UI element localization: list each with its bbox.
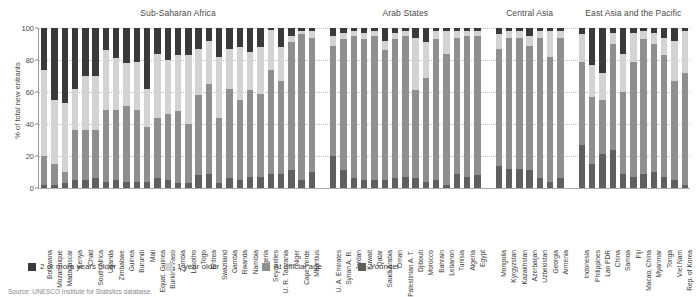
bar-segment (195, 28, 201, 49)
bar-segment (257, 177, 263, 188)
bar-segment (257, 47, 263, 93)
category-label: Azerbaijan (532, 250, 539, 281)
bar-segment (412, 90, 418, 178)
bar-segment (237, 100, 243, 180)
bar-segment (92, 28, 98, 76)
bar-segment (537, 38, 543, 179)
bar-segment (589, 28, 595, 65)
bar-segment (382, 41, 388, 51)
bar-segment (288, 28, 294, 36)
category-label: Tunisia (459, 250, 466, 271)
bar-segment (423, 28, 429, 42)
bar-segment (599, 28, 605, 73)
category-label: Zimbabwe (119, 250, 126, 280)
bar-segment (454, 174, 460, 188)
bar-segment (154, 28, 160, 54)
bar (671, 28, 677, 188)
bar-segment (402, 36, 408, 177)
bar-segment (526, 170, 532, 188)
bar-segment (41, 156, 47, 185)
bar-segment (537, 178, 543, 188)
bar-segment (51, 100, 57, 164)
bar-segment (288, 42, 294, 170)
bar-segment (474, 175, 480, 188)
bar (630, 28, 636, 188)
bar-segment (185, 124, 191, 183)
bar-segment (526, 28, 532, 36)
bar-segment (113, 180, 119, 188)
bar-segment (51, 28, 57, 100)
bar-segment (113, 28, 119, 58)
bar (257, 28, 263, 188)
bar (589, 28, 595, 188)
bar-segment (526, 36, 532, 46)
bar (682, 28, 688, 188)
bar (351, 28, 357, 188)
legend-item: At official age (262, 262, 322, 271)
bar-segment (309, 38, 315, 172)
bar-segment (175, 28, 181, 55)
y-tick-label-20: 20 (26, 152, 34, 161)
bar-segment (579, 145, 585, 188)
plot-area (39, 28, 690, 188)
legend-swatch-younger (358, 263, 366, 271)
bar-segment (547, 31, 553, 57)
bar-segment (226, 49, 232, 89)
bar-segment (361, 180, 367, 188)
bar (423, 28, 429, 188)
bar (392, 28, 398, 188)
bar-segment (247, 52, 253, 90)
bar-segment (589, 164, 595, 188)
bar-segment (620, 174, 626, 188)
legend-label: At official age (274, 262, 322, 271)
bar-segment (382, 180, 388, 188)
bar (599, 28, 605, 188)
bar (237, 28, 243, 188)
bar-segment (41, 185, 47, 188)
bar-segment (206, 41, 212, 84)
bar-segment (134, 110, 140, 182)
bar-segment (278, 174, 284, 188)
bar-segment (599, 73, 605, 100)
bar-segment (610, 44, 616, 150)
bar (309, 28, 315, 188)
bar-segment (257, 94, 263, 177)
bar-segment (579, 62, 585, 145)
bar-segment (134, 28, 140, 62)
category-label: Rwanda (242, 250, 249, 274)
bar (92, 28, 98, 188)
category-label: Philippines (595, 250, 602, 282)
bar-segment (496, 166, 502, 188)
bar-segment (195, 95, 201, 175)
bar-segment (278, 28, 284, 47)
bar-segment (123, 63, 129, 106)
bar-segment (433, 180, 439, 188)
bar-segment (433, 31, 439, 39)
category-label: Viet Nam (677, 250, 684, 277)
bar (72, 28, 78, 188)
bar-segment (247, 28, 253, 52)
bar (382, 28, 388, 188)
bar-segment (82, 76, 88, 130)
bar-segment (185, 28, 191, 55)
bar (454, 28, 460, 188)
bar-segment (165, 60, 171, 114)
bar-segment (412, 178, 418, 188)
bar-segment (371, 180, 377, 188)
bar-segment (496, 49, 502, 166)
bar-segment (278, 47, 284, 81)
bar-segment (640, 39, 646, 173)
category-label: Mongolia (501, 250, 508, 277)
y-tick-label-80: 80 (26, 56, 34, 65)
bar-segment (671, 41, 677, 81)
bar-segment (579, 34, 585, 61)
bar (123, 28, 129, 188)
bar-segment (412, 28, 418, 38)
bar-segment (144, 89, 150, 127)
bar (268, 28, 274, 188)
bar-segment (620, 92, 626, 174)
bar (330, 28, 336, 188)
group-title-sub-saharan-africa: Sub-Saharan Africa (39, 8, 317, 18)
category-label: China (615, 250, 622, 267)
bar (579, 28, 585, 188)
